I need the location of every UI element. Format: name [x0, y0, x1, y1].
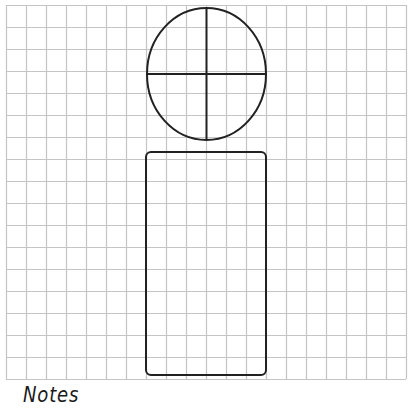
graph-paper-canvas	[0, 0, 410, 409]
notes-heading: Notes	[23, 384, 79, 406]
